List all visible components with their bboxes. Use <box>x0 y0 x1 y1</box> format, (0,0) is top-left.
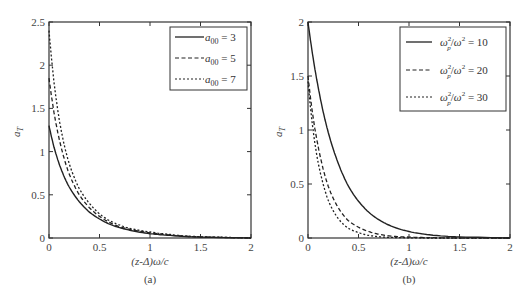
x-axis-label-a: (z-Δ)ω/c <box>131 255 169 268</box>
y-tick-label: 2 <box>40 59 46 71</box>
x-tick-label: 0 <box>46 241 52 253</box>
legend-b: ω2p/ω2 = 10 ω2p/ω2 = 20 ω2p/ω2 = 30 <box>400 27 506 111</box>
panel-b: 00.511.5200.511.52 ω2p/ω2 = 10 ω2p/ω2 = … <box>272 16 513 286</box>
x-axis-label-b: (z-Δ)ω/c <box>390 255 428 268</box>
y-tick-label: 0 <box>40 232 46 244</box>
y-tick-label: 0.5 <box>290 178 304 190</box>
panel-a: 00.511.5200.511.522.5 a00 = 3 a00 = 5 a0… <box>10 16 254 286</box>
x-tick-label: 1 <box>147 241 153 253</box>
y-tick-label: 1.5 <box>31 102 45 114</box>
x-tick-label: 1.5 <box>453 241 467 253</box>
curve-solid <box>49 126 251 238</box>
legend-a: a00 = 3 a00 = 5 a00 = 7 <box>170 27 247 90</box>
x-tick-label: 1 <box>406 241 412 253</box>
panel-label-b: (b) <box>403 273 416 286</box>
x-tick-label: 1.5 <box>194 241 208 253</box>
y-tick-label: 1.5 <box>290 70 304 82</box>
panel-label-a: (a) <box>144 273 157 286</box>
y-tick-label: 1 <box>40 146 46 158</box>
x-tick-label: 0 <box>305 241 311 253</box>
figure: 00.511.5200.511.522.5 a00 = 3 a00 = 5 a0… <box>0 0 527 298</box>
y-tick-label: 0 <box>299 232 305 244</box>
y-axis-label-a: aT <box>10 126 25 137</box>
x-tick-label: 2 <box>507 241 513 253</box>
x-tick-label: 0.5 <box>93 241 107 253</box>
x-tick-label: 2 <box>248 241 254 253</box>
y-tick-label: 2 <box>299 16 305 28</box>
y-tick-label: 2.5 <box>31 16 45 28</box>
y-tick-label: 0.5 <box>31 189 45 201</box>
y-axis-label-b: aT <box>272 126 287 137</box>
x-tick-label: 0.5 <box>352 241 366 253</box>
curve-dashed <box>49 78 251 238</box>
y-tick-label: 1 <box>299 124 305 136</box>
